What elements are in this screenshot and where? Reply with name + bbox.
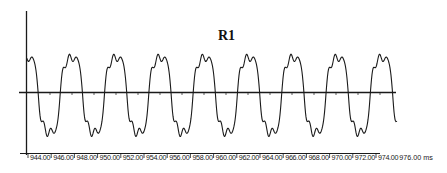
x-tick-label: 960.00 <box>216 153 236 162</box>
x-tick-label: 972.00 <box>355 153 375 162</box>
x-tick-label: 944.00 <box>30 153 50 162</box>
x-axis-unit-label: 976.00 ms <box>399 153 433 162</box>
x-tick-label: 974.00 <box>378 153 398 162</box>
x-tick-label: 946.00 <box>53 153 73 162</box>
waveform-line <box>27 54 397 136</box>
x-tick-label: 964.00 <box>262 153 282 162</box>
x-tick-label: 950.00 <box>100 153 120 162</box>
x-tick-label: 954.00 <box>146 153 166 162</box>
x-tick-label: 970.00 <box>332 153 352 162</box>
waveform-chart <box>0 0 447 173</box>
x-tick-label: 952.00 <box>123 153 143 162</box>
x-tick-label: 948.00 <box>76 153 96 162</box>
x-tick-label: 962.00 <box>239 153 259 162</box>
x-tick-label: 956.00 <box>169 153 189 162</box>
chart-title: R1 <box>218 28 235 44</box>
x-tick-label: 958.00 <box>192 153 212 162</box>
x-tick-label: 966.00 <box>285 153 305 162</box>
x-axis-labels: 976.00 ms 944.00946.00948.00950.00952.00… <box>0 150 447 164</box>
x-tick-label: 968.00 <box>308 153 328 162</box>
